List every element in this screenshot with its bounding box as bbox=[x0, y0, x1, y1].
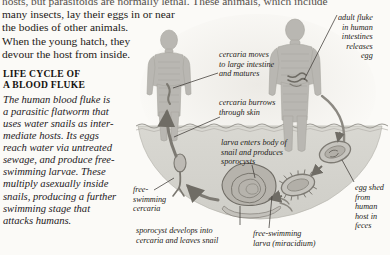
annotation-adult-fluke-line-4: egg bbox=[338, 51, 373, 61]
annotation-larva-enters-snail-line-2: sporocysts bbox=[221, 157, 287, 167]
annotation-cercaria-moves-line-0: cercaria moves bbox=[219, 50, 274, 60]
caption-body-line-2: uses water snails as inter- bbox=[3, 118, 131, 130]
annotation-larva-enters-snail-line-1: snail and produces bbox=[221, 148, 287, 158]
annotation-cercaria-burrows: cercaria burrows through skin bbox=[219, 98, 275, 117]
annotation-free-swimming-cercaria-line-0: free- bbox=[133, 185, 166, 195]
annotation-adult-fluke-line-1: in human bbox=[338, 23, 373, 33]
caption-body-line-10: attacks humans. bbox=[3, 215, 131, 227]
annotation-egg-shed: egg shed from human host in feces bbox=[355, 183, 384, 231]
annotation-cercaria-moves-line-2: and matures bbox=[219, 69, 274, 79]
annotation-sporocyst-develops: sporocyst develops into cercaria and lea… bbox=[136, 226, 218, 245]
annotation-free-swimming-cercaria: free- swimming cercaria bbox=[133, 185, 166, 214]
annotation-free-swimming-larva: free-swimming larva (miracidium) bbox=[253, 229, 316, 248]
caption-body-line-3: mediate hosts. Its eggs bbox=[3, 130, 131, 142]
caption-block: LIFE CYCLE OF A BLOOD FLUKE The human bl… bbox=[3, 68, 131, 227]
annotation-adult-fluke-line-0: adult fluke bbox=[338, 13, 373, 23]
annotation-adult-fluke-line-3: releases bbox=[338, 42, 373, 52]
caption-body-line-9: swimming stage that bbox=[3, 203, 131, 215]
annotation-sporocyst-develops-line-0: sporocyst develops into bbox=[136, 226, 218, 236]
page-canvas: hosts, but parasitoids are normally leth… bbox=[0, 0, 390, 255]
caption-heading-line-1: A BLOOD FLUKE bbox=[3, 79, 131, 90]
annotation-free-swimming-larva-line-1: larva (miracidium) bbox=[253, 239, 316, 249]
annotation-cercaria-burrows-line-0: cercaria burrows bbox=[219, 98, 275, 108]
annotation-egg-shed-line-1: from bbox=[355, 193, 384, 203]
caption-body-line-0: The human blood fluke is bbox=[3, 94, 131, 106]
annotation-adult-fluke: adult fluke in human intestines releases… bbox=[338, 13, 373, 61]
annotation-egg-shed-line-4: feces bbox=[355, 221, 384, 231]
annotation-egg-shed-line-3: host in bbox=[355, 212, 384, 222]
caption-heading: LIFE CYCLE OF A BLOOD FLUKE bbox=[3, 68, 131, 91]
annotation-free-swimming-larva-line-0: free-swimming bbox=[253, 229, 316, 239]
annotation-cercaria-burrows-line-1: through skin bbox=[219, 108, 275, 118]
caption-body-line-8: snails, producing a further bbox=[3, 191, 131, 203]
caption-body: The human blood fluke is a parasitic fla… bbox=[3, 94, 131, 227]
annotation-larva-enters-snail-line-0: larva enters body of bbox=[221, 138, 287, 148]
annotation-larva-enters-snail: larva enters body of snail and produces … bbox=[221, 138, 287, 167]
annotation-adult-fluke-line-2: intestines bbox=[338, 32, 373, 42]
annotation-cercaria-moves: cercaria moves to large intestine and ma… bbox=[219, 50, 274, 79]
annotation-cercaria-moves-line-1: to large intestine bbox=[219, 60, 274, 70]
caption-body-line-1: a parasitic flatworm that bbox=[3, 106, 131, 118]
annotation-sporocyst-develops-line-1: cercaria and leaves snail bbox=[136, 236, 218, 246]
caption-body-line-5: sewage, and produce free- bbox=[3, 154, 131, 166]
annotation-egg-shed-line-2: human bbox=[355, 202, 384, 212]
caption-body-line-6: swimming larvae. These bbox=[3, 166, 131, 178]
annotation-egg-shed-line-0: egg shed bbox=[355, 183, 384, 193]
annotation-free-swimming-cercaria-line-2: cercaria bbox=[133, 204, 166, 214]
caption-heading-line-0: LIFE CYCLE OF bbox=[3, 68, 131, 79]
caption-body-line-4: reach water via untreated bbox=[3, 142, 131, 154]
caption-body-line-7: multiply asexually inside bbox=[3, 178, 131, 190]
annotation-free-swimming-cercaria-line-1: swimming bbox=[133, 195, 166, 205]
